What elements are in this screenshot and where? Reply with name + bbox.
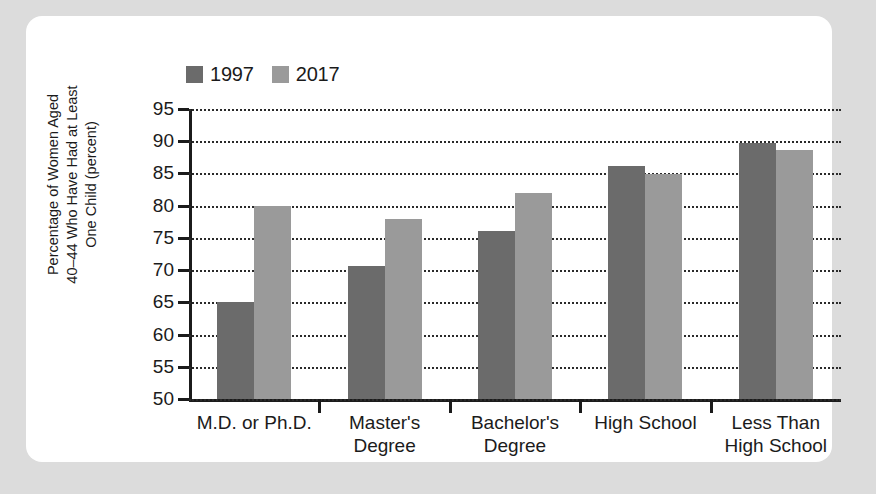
y-tick-label: 85	[140, 163, 174, 182]
legend-label-1997: 1997	[210, 64, 254, 84]
y-tick	[178, 301, 189, 304]
gridline	[189, 399, 841, 401]
y-tick-label: 60	[140, 325, 174, 344]
y-tick	[178, 237, 189, 240]
page-background: 1997 2017 Percentage of Women Aged 40–44…	[0, 0, 876, 494]
y-tick-label: 50	[140, 389, 174, 408]
legend-swatch-1997	[186, 66, 203, 83]
y-tick-label: 75	[140, 228, 174, 247]
y-tick-label: 70	[140, 260, 174, 279]
bar-2017-3	[515, 193, 552, 399]
gridline	[189, 109, 841, 111]
y-tick-label: 55	[140, 357, 174, 376]
x-category-label-line: Less Than	[699, 411, 853, 434]
y-tick-label: 90	[140, 131, 174, 150]
y-axis-title: Percentage of Women Aged 40–44 Who Have …	[44, 35, 101, 335]
x-category-label-line: High School	[699, 434, 853, 457]
bar-1997-3	[478, 231, 515, 399]
y-axis-title-line-3: One Child (percent)	[82, 35, 101, 335]
y-tick-label: 80	[140, 196, 174, 215]
bar-2017-4	[645, 174, 682, 399]
bar-2017-5	[776, 150, 813, 399]
bar-2017-1	[254, 206, 291, 399]
chart-legend: 1997 2017	[186, 62, 339, 86]
y-tick	[178, 140, 189, 143]
legend-entry-1997: 1997	[186, 64, 254, 84]
bar-1997-2	[348, 266, 385, 399]
y-axis-title-line-2: 40–44 Who Have Had at Least	[63, 35, 82, 335]
x-category-label-line: Degree	[438, 434, 592, 457]
y-tick-label: 95	[140, 99, 174, 118]
y-tick	[178, 269, 189, 272]
y-tick	[178, 398, 189, 401]
bar-1997-4	[608, 166, 645, 399]
x-category-label: Less ThanHigh School	[699, 411, 853, 457]
plot-area: 95908580757065605550 M.D. or Ph.D.Master…	[189, 109, 841, 399]
y-tick	[178, 334, 189, 337]
y-tick	[178, 205, 189, 208]
bar-1997-1	[217, 302, 254, 399]
bar-1997-5	[739, 143, 776, 399]
y-tick-label: 65	[140, 292, 174, 311]
legend-swatch-2017	[272, 66, 289, 83]
bar-2017-2	[385, 219, 422, 399]
legend-entry-2017: 2017	[272, 64, 340, 84]
y-axis-line	[189, 109, 192, 399]
y-tick	[178, 366, 189, 369]
y-tick	[178, 108, 189, 111]
chart-card: 1997 2017 Percentage of Women Aged 40–44…	[26, 16, 832, 462]
y-axis-title-line-1: Percentage of Women Aged	[44, 35, 63, 335]
legend-label-2017: 2017	[296, 64, 340, 84]
y-tick	[178, 172, 189, 175]
